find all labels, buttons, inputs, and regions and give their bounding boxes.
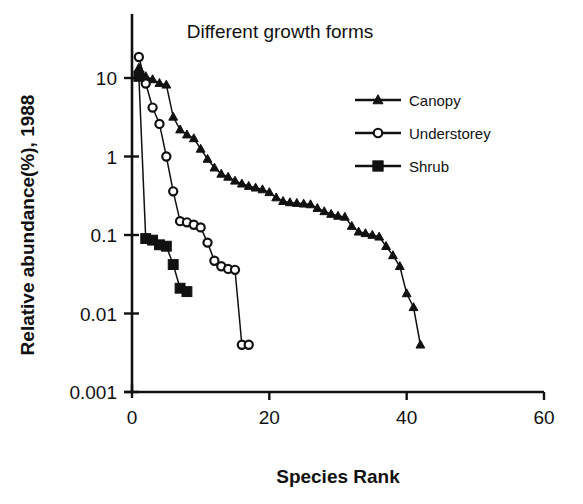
chart-title: Different growth forms <box>187 21 374 42</box>
marker-circle <box>231 266 239 274</box>
y-tick-label: 1 <box>106 147 117 168</box>
y-axis-title: Relative abundance(%), 1988 <box>17 95 38 356</box>
marker-circle <box>135 53 143 61</box>
x-tick-label: 60 <box>533 407 554 428</box>
x-axis-title: Species Rank <box>276 466 400 487</box>
rank-abundance-plot: Different growth forms 1010.10.010.001 0… <box>0 0 583 504</box>
marker-circle <box>245 341 253 349</box>
marker-circle <box>155 120 163 128</box>
marker-circle <box>374 129 383 138</box>
plot-background <box>0 0 583 504</box>
x-tick-label: 0 <box>127 407 138 428</box>
y-tick-label: 10 <box>96 68 117 89</box>
x-tick-label: 40 <box>396 407 417 428</box>
legend-label: Understorey <box>409 125 491 142</box>
x-tick-label: 20 <box>259 407 280 428</box>
y-tick-label: 0.01 <box>80 304 117 325</box>
marker-circle <box>203 239 211 247</box>
y-tick-label: 0.001 <box>69 382 117 403</box>
legend-label: Canopy <box>409 92 461 109</box>
marker-square <box>134 71 144 81</box>
marker-circle <box>149 103 157 111</box>
chart-figure: Different growth forms 1010.10.010.001 0… <box>0 0 583 504</box>
marker-circle <box>162 152 170 160</box>
marker-square <box>161 241 171 251</box>
legend-label: Shrub <box>409 158 449 175</box>
marker-square <box>168 260 178 270</box>
marker-square <box>373 161 383 171</box>
marker-square <box>182 287 192 297</box>
marker-circle <box>169 187 177 195</box>
marker-circle <box>197 223 205 231</box>
y-tick-label: 0.1 <box>91 225 117 246</box>
